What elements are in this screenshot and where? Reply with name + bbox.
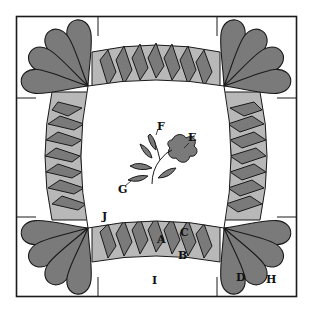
label-d: D <box>236 271 246 284</box>
label-c: C <box>180 226 189 239</box>
label-h: H <box>266 273 276 286</box>
label-i: I <box>152 274 157 287</box>
label-f: F <box>157 120 165 133</box>
label-j: J <box>101 210 107 223</box>
quilt-block-diagram: A B C D E F G H I J <box>0 0 311 313</box>
label-g: G <box>118 183 127 196</box>
label-e: E <box>188 131 196 144</box>
center-panel <box>81 80 231 228</box>
label-a: A <box>156 233 166 246</box>
label-b: B <box>178 249 187 262</box>
